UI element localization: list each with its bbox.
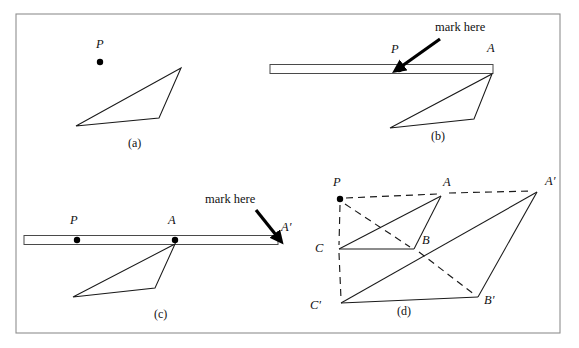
panel-b-caption: (b) [431,129,445,143]
point-c-label: C [315,241,324,255]
point-p-label: P [390,42,399,56]
figure-root: P (a) P A mark here (b) P A A′ mark here… [0,0,579,348]
mark-here-label: mark here [435,20,486,34]
straightedge-ruler [270,65,493,74]
point-p-dot [97,59,103,65]
point-b-prime-label: B′ [484,293,495,307]
panel-c-caption: (c) [154,307,167,321]
point-p-dot [337,196,343,202]
point-p-dot [396,66,402,72]
panel-a-caption: (a) [128,136,141,150]
point-p-label: P [95,37,104,51]
point-b-label: B [422,233,430,247]
point-p-label: P [332,175,341,189]
point-a-label: A [167,213,176,227]
point-a-prime-label: A′ [544,174,556,188]
point-p-dot [74,237,80,243]
point-a-dot [172,237,178,243]
point-c-prime-label: C′ [310,298,321,312]
point-a-prime-label: A′ [280,220,292,234]
point-a-label: A [442,175,451,189]
figure-canvas: P (a) P A mark here (b) P A A′ mark here… [0,0,579,348]
point-p-label: P [69,213,78,227]
point-a-label: A [486,41,495,55]
panel-d-caption: (d) [397,304,411,318]
straightedge-ruler [24,236,278,245]
mark-here-label: mark here [205,192,256,206]
